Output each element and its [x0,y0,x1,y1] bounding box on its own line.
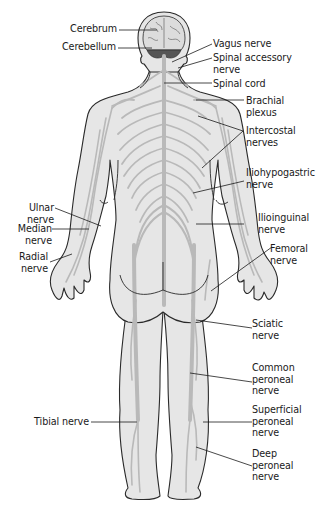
label-tibial-nerve: Tibial nerve [34,416,89,428]
label-deep-peroneal-nerve: Deep peroneal nerve [252,448,293,483]
label-common-peroneal-nerve: Common peroneal nerve [252,362,295,397]
label-femoral-nerve: Femoral nerve [270,243,308,266]
label-cerebellum: Cerebellum [62,41,116,53]
label-median-nerve: Median nerve [18,223,52,246]
label-spinal-accessory-nerve: Spinal accessory nerve [213,52,292,75]
label-ulnar-nerve: Ulnar nerve [27,202,54,225]
label-spinal-cord: Spinal cord [213,78,265,90]
label-ilioinguinal-nerve: Ilioinguinal nerve [258,212,309,235]
label-brachial-plexus: Brachial plexus [246,95,284,118]
label-vagus-nerve: Vagus nerve [213,38,271,50]
label-sciatic-nerve: Sciatic nerve [252,318,283,341]
label-cerebrum: Cerebrum [70,23,117,35]
brain [143,16,185,58]
label-iliohypogastric-nerve: Iliohypogastric nerve [246,167,315,190]
nervous-system-diagram: Cerebrum Cerebellum Ulnar nerve Median n… [0,0,322,517]
label-superficial-peroneal-nerve: Superficial peroneal nerve [252,404,302,439]
label-radial-nerve: Radial nerve [19,251,48,274]
label-intercostal-nerves: Intercostal nerves [246,125,296,148]
